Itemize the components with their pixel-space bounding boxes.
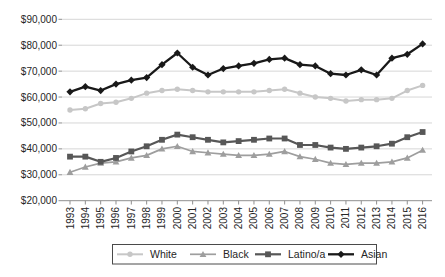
data-point-square (343, 146, 349, 152)
legend-label: Black (223, 248, 249, 260)
data-point-circle (83, 106, 88, 111)
data-point-diamond (66, 88, 73, 95)
data-point-diamond (128, 77, 135, 84)
data-point-diamond (281, 55, 288, 62)
chart-legend: WhiteBlackLatino/aAsian (113, 245, 388, 265)
data-point-square (266, 136, 272, 142)
data-point-circle (313, 94, 318, 99)
data-point-circle (98, 101, 103, 106)
data-point-square (251, 137, 257, 143)
data-point-square (144, 143, 150, 149)
data-point-circle (236, 89, 241, 94)
series-asian (66, 40, 426, 95)
x-tick-label: 2001 (187, 207, 198, 230)
data-point-square (389, 141, 395, 147)
data-point-circle (328, 96, 333, 101)
data-point-circle (267, 88, 272, 93)
x-tick-label: 1995 (95, 207, 106, 230)
data-point-square (113, 155, 119, 161)
x-tick-label: 1999 (156, 207, 167, 230)
x-tick-label: 1993 (65, 207, 76, 230)
data-point-diamond (235, 62, 242, 69)
x-tick-label: 2000 (172, 207, 183, 230)
data-point-square (205, 137, 211, 143)
x-tick-label: 2011 (340, 207, 351, 229)
y-tick-label: $50,000 (21, 117, 58, 128)
legend-label: White (150, 248, 177, 260)
x-tick-label: 2004 (233, 207, 244, 230)
data-point-diamond (266, 56, 273, 63)
x-tick-label: 2008 (294, 207, 305, 230)
series-line-latino-a (70, 132, 423, 162)
data-point-square (174, 132, 180, 138)
data-point-diamond (358, 66, 365, 73)
series-line-asian (70, 44, 423, 92)
data-point-circle (190, 88, 195, 93)
data-point-diamond (342, 71, 349, 78)
x-tick-label: 2010 (325, 207, 336, 230)
data-point-square (358, 145, 364, 151)
data-point-diamond (112, 80, 119, 87)
legend-label: Latino/a (288, 248, 326, 260)
data-point-square (328, 145, 334, 151)
data-point-circle (175, 87, 180, 92)
data-point-square (265, 251, 271, 257)
x-tick-label: 2002 (202, 207, 213, 230)
data-point-circle (343, 98, 348, 103)
data-point-circle (221, 89, 226, 94)
data-point-square (128, 149, 134, 155)
data-point-circle (297, 90, 302, 95)
data-point-circle (129, 96, 134, 101)
y-tick-label: $40,000 (21, 143, 58, 154)
x-tick-label: 2006 (264, 207, 275, 230)
median-income-by-race-line-chart: $20,000$30,000$40,000$50,000$60,000$70,0… (0, 0, 445, 277)
data-point-circle (67, 107, 72, 112)
data-point-square (220, 139, 226, 145)
data-point-circle (127, 252, 132, 257)
data-point-square (420, 129, 426, 135)
series-white (67, 83, 425, 113)
data-point-square (282, 136, 288, 142)
y-tick-label: $30,000 (21, 169, 58, 180)
x-tick-label: 2012 (356, 207, 367, 230)
x-tick-label: 1998 (141, 207, 152, 230)
data-point-circle (282, 87, 287, 92)
data-point-circle (374, 97, 379, 102)
data-point-square (159, 137, 165, 143)
x-axis-labels: 1993199419951996199719981999200020012002… (65, 201, 429, 230)
data-point-circle (420, 83, 425, 88)
data-point-diamond (250, 60, 257, 67)
series-latino-a (67, 129, 425, 165)
x-tick-label: 2007 (279, 207, 290, 230)
x-tick-label: 2014 (386, 207, 397, 230)
data-point-square (82, 154, 88, 160)
x-tick-label: 2016 (417, 207, 428, 230)
data-point-circle (144, 90, 149, 95)
data-point-circle (251, 89, 256, 94)
data-point-square (190, 134, 196, 140)
data-point-circle (159, 88, 164, 93)
data-point-square (67, 154, 73, 160)
y-tick-label: $60,000 (21, 92, 58, 103)
data-point-diamond (296, 61, 303, 68)
data-point-circle (113, 100, 118, 105)
x-tick-label: 2005 (248, 207, 259, 230)
y-tick-label: $90,000 (21, 14, 58, 25)
x-tick-label: 1996 (110, 207, 121, 230)
y-tick-label: $80,000 (21, 40, 58, 51)
chart-canvas: $20,000$30,000$40,000$50,000$60,000$70,0… (0, 0, 445, 277)
y-tick-label: $70,000 (21, 66, 58, 77)
data-point-square (297, 142, 303, 148)
gridlines (59, 19, 433, 200)
data-point-circle (389, 96, 394, 101)
y-tick-label: $20,000 (21, 195, 58, 206)
data-point-triangle (419, 147, 426, 153)
data-point-square (236, 138, 242, 144)
x-tick-label: 2015 (402, 207, 413, 230)
series-line-black (70, 146, 423, 172)
data-point-square (312, 142, 318, 148)
x-tick-label: 2013 (371, 207, 382, 230)
data-point-square (404, 134, 410, 140)
data-point-diamond (82, 83, 89, 90)
series-line-white (70, 85, 423, 110)
